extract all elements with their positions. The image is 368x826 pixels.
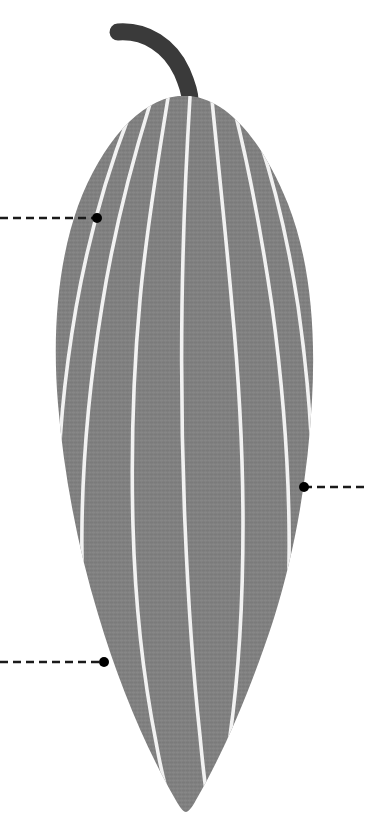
illustration-canvas — [0, 0, 368, 826]
callout-upper-left-dot[interactable] — [92, 213, 102, 223]
gourd-diagram — [0, 0, 368, 826]
callout-lower-left-dot[interactable] — [99, 657, 109, 667]
callout-middle-right-dot[interactable] — [299, 482, 309, 492]
